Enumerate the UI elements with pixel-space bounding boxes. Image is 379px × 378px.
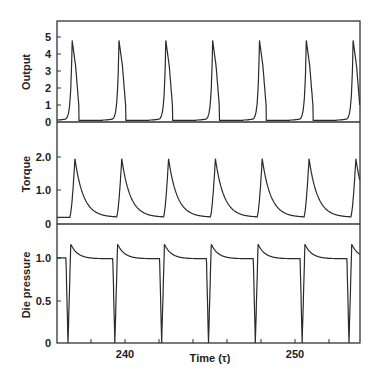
ytick-torque-2: 2.0 [36, 151, 51, 163]
ytick-torque-0: 0 [45, 218, 51, 230]
xtick-250: 250 [286, 348, 304, 360]
figure: 5 4 3 2 1 0 2.0 1.0 0 1.0 0.5 0 240 250 … [0, 0, 379, 378]
y-axis-label-torque: Torque [20, 156, 32, 192]
y-axis-label-die-pressure: Die pressure [20, 252, 32, 319]
output-series-line [57, 40, 360, 120]
ytick-output-5: 5 [45, 31, 51, 43]
ytick-pressure-05: 0.5 [36, 295, 51, 307]
ytick-output-4: 4 [45, 48, 52, 60]
xtick-240: 240 [116, 348, 134, 360]
plot-frame [57, 21, 360, 343]
x-axis-label: Time (τ) [190, 352, 231, 364]
y-axis-label-output: Output [20, 54, 32, 90]
ytick-output-3: 3 [45, 65, 51, 77]
ytick-torque-1: 1.0 [36, 184, 51, 196]
ytick-output-1: 1 [45, 99, 51, 111]
torque-series-line [57, 159, 360, 218]
ytick-output-0: 0 [45, 116, 51, 128]
ytick-output-2: 2 [45, 82, 51, 94]
ytick-pressure-1: 1.0 [36, 252, 51, 264]
die-pressure-series-line [57, 244, 360, 343]
ytick-pressure-0: 0 [45, 337, 51, 349]
data-curves [57, 40, 360, 343]
